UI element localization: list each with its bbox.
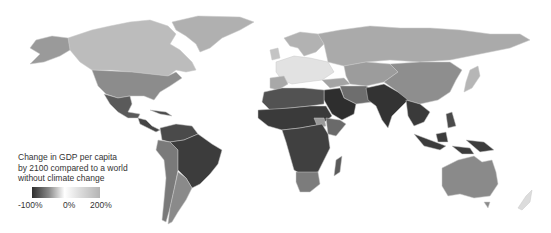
region-new-zealand [518,190,532,210]
region-philippines [446,112,456,128]
legend-title: Change in GDP per capita by 2100 compare… [18,152,158,184]
legend-title-line-1: Change in GDP per capita [18,152,158,163]
region-southeast-asia [406,100,430,126]
region-south-africa [296,172,320,192]
legend-tick-zero: 0% [63,200,75,210]
region-tasmania [484,202,490,208]
region-alaska [30,36,70,64]
region-greenland [172,16,254,52]
legend-tick-max: 200% [90,200,112,210]
legend-title-line-2: by 2100 compared to a world [18,163,158,174]
legend-colorbar [32,187,100,198]
region-horn-of-africa [326,118,346,136]
legend: Change in GDP per capita by 2100 compare… [18,152,158,212]
legend-ticks: -100% 0% 200% [18,200,158,212]
region-indonesia [414,132,494,154]
region-central-america [138,118,160,132]
region-caribbean [150,110,172,116]
region-russia [318,26,530,66]
region-madagascar [334,156,342,176]
region-australia [442,156,498,198]
region-mexico [104,94,140,118]
region-northern-europe [284,32,324,56]
legend-title-line-3: without climate change [18,173,158,184]
region-united-kingdom [270,48,280,60]
region-central-africa [282,124,330,176]
region-japan [464,66,480,92]
legend-tick-min: -100% [18,200,43,210]
